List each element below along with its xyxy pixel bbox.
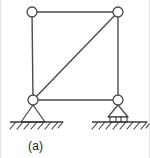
pin-support — [10, 105, 63, 129]
roller-support-triangle — [108, 105, 128, 117]
member-left-column — [32, 12, 33, 100]
roller-support — [92, 105, 149, 129]
roller-support-ground-hatching — [92, 122, 149, 129]
joint-top-right — [113, 7, 123, 17]
pin-support-ground-hatching — [10, 122, 63, 129]
member-diagonal-brace — [33, 12, 118, 100]
joint-bottom-right — [113, 95, 123, 105]
joint-top-left — [27, 7, 37, 17]
frame-members — [32, 12, 118, 100]
figure-caption: (a) — [28, 139, 43, 153]
roller-housing — [110, 117, 127, 122]
structure-drawing — [0, 0, 150, 158]
joint-bottom-left — [28, 95, 38, 105]
roller-support-rollers — [110, 117, 127, 122]
structural-diagram-figure: (a) — [0, 0, 150, 158]
pin-support-triangle — [21, 105, 45, 122]
